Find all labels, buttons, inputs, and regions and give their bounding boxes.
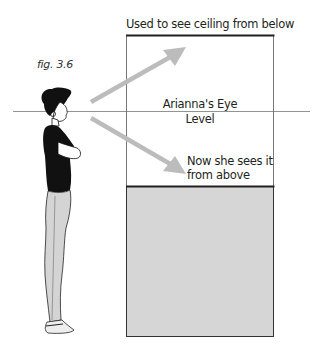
arrow-up-icon bbox=[91, 47, 186, 102]
figure-caption: fig. 3.6 bbox=[37, 58, 73, 72]
ceiling-label: Used to see ceiling from below bbox=[126, 17, 274, 31]
now-label-line1: Now she sees it bbox=[187, 154, 273, 168]
now-label-line2: from above bbox=[187, 168, 273, 182]
lower-grey-box bbox=[127, 187, 274, 337]
eye-level-label-line1: Arianna's Eye bbox=[126, 97, 274, 112]
now-label: Now she sees it from above bbox=[187, 154, 273, 182]
eye-level-label-line2: Level bbox=[126, 112, 274, 127]
eye-level-label: Arianna's Eye Level bbox=[126, 97, 274, 127]
woman-figure-icon bbox=[42, 87, 81, 333]
